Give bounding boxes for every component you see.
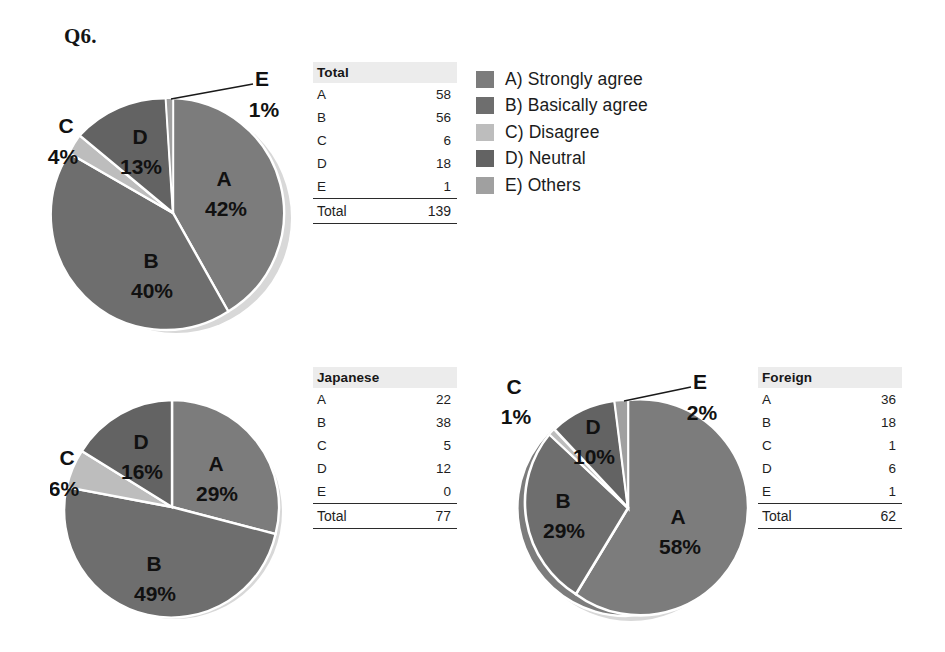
legend-swatch-b-icon	[476, 97, 494, 114]
table-foreign-row-3-key: D	[758, 457, 830, 480]
table-japanese-row-4-value: 0	[385, 480, 457, 504]
pie-total-svg: A 42% B 40% C 4% D 13% E 1%	[40, 58, 320, 348]
table-japanese-sum-row: Total 77	[313, 504, 457, 529]
pie-foreign-label-b-key: B	[555, 489, 570, 512]
table-row: A 58	[313, 83, 457, 106]
table-japanese-sum-value: 77	[385, 504, 457, 529]
pie-total-label-b-pct: 40%	[131, 279, 173, 302]
table-row: C 5	[313, 434, 457, 457]
table-row: E 1	[313, 175, 457, 199]
pie-japanese-label-b-pct: 49%	[134, 582, 176, 605]
table-japanese-header: Japanese	[313, 367, 457, 388]
table-foreign-row-1-value: 18	[830, 411, 902, 434]
table-total-row-3-key: D	[313, 152, 385, 175]
page-title: Q6.	[64, 24, 97, 49]
table-row: B 18	[758, 411, 902, 434]
legend-item-d: D) Neutral	[476, 146, 648, 173]
table-total-row-0-key: A	[313, 83, 385, 106]
table-japanese-row-4-key: E	[313, 480, 385, 504]
pie-total-label-a-pct: 42%	[205, 197, 247, 220]
legend: A) Strongly agree B) Basically agree C) …	[476, 66, 648, 199]
table-row: A 36	[758, 388, 902, 411]
legend-label-d: D) Neutral	[505, 148, 586, 169]
pie-japanese-label-a-pct: 29%	[196, 482, 238, 505]
table-total-row-4-key: E	[313, 175, 385, 199]
pie-japanese-label-c-pct: 6%	[50, 477, 79, 500]
table-foreign-header: Foreign	[758, 367, 902, 388]
pie-foreign-label-c-pct: 1%	[501, 405, 532, 428]
leader-line-e	[624, 387, 691, 401]
table-foreign-row-2-value: 1	[830, 434, 902, 457]
pie-japanese-label-c-key: C	[59, 446, 74, 469]
legend-item-b: B) Basically agree	[476, 93, 648, 120]
pie-foreign-svg: A 58% B 29% C 1% D 10% E 2%	[500, 370, 780, 635]
table-total-row-2-key: C	[313, 129, 385, 152]
table-total-row-2-value: 6	[385, 129, 457, 152]
pie-total-label-d-key: D	[132, 125, 147, 148]
table-total-sum-value: 139	[385, 199, 457, 224]
legend-swatch-c-icon	[476, 124, 494, 141]
table-row: C 6	[313, 129, 457, 152]
table-japanese-body: A 22 B 38 C 5 D 12 E 0 Total 77	[313, 388, 457, 529]
table-foreign-sum-label: Total	[758, 504, 830, 529]
pie-japanese-svg: A 29% B 49% C 6% D 16%	[50, 385, 320, 635]
legend-swatch-e-icon	[476, 177, 494, 194]
table-japanese-row-1-value: 38	[385, 411, 457, 434]
table-row: A 22	[313, 388, 457, 411]
pie-chart-total: A 42% B 40% C 4% D 13% E 1%	[40, 58, 320, 348]
pie-total-label-d-pct: 13%	[120, 155, 162, 178]
table-japanese-sum-label: Total	[313, 504, 385, 529]
pie-total-label-a-key: A	[216, 167, 231, 190]
legend-label-e: E) Others	[505, 175, 581, 196]
table-japanese: Japanese A 22 B 38 C 5 D 12 E 0	[313, 367, 457, 529]
pie-foreign-label-a-key: A	[670, 505, 685, 528]
document-page: Q6. A 42% B 40% C	[0, 0, 945, 652]
table-row: D 12	[313, 457, 457, 480]
pie-total-label-c-pct: 4%	[48, 145, 79, 168]
pie-total-label-b-key: B	[143, 249, 158, 272]
table-row: C 1	[758, 434, 902, 457]
pie-total-label-c-key: C	[58, 114, 73, 137]
pie-chart-japanese: A 29% B 49% C 6% D 16%	[50, 385, 320, 635]
legend-item-c: C) Disagree	[476, 119, 648, 146]
pie-total-label-e-key: E	[255, 67, 269, 90]
table-row: D 18	[313, 152, 457, 175]
leader-line-e	[171, 84, 253, 99]
table-foreign-row-4-value: 1	[830, 480, 902, 504]
table-row: B 38	[313, 411, 457, 434]
pie-japanese-label-a-key: A	[208, 452, 223, 475]
pie-foreign-label-b-pct: 29%	[543, 519, 585, 542]
table-row: D 6	[758, 457, 902, 480]
table-foreign-row-1-key: B	[758, 411, 830, 434]
table-foreign-row-0-value: 36	[830, 388, 902, 411]
legend-swatch-a-icon	[476, 71, 494, 88]
table-row: E 1	[758, 480, 902, 504]
pie-foreign-label-e-pct: 2%	[687, 401, 718, 424]
legend-item-a: A) Strongly agree	[476, 66, 648, 93]
table-japanese-row-0-key: A	[313, 388, 385, 411]
table-total-row-4-value: 1	[385, 175, 457, 199]
pie-chart-foreign: A 58% B 29% C 1% D 10% E 2%	[500, 370, 780, 635]
legend-label-b: B) Basically agree	[505, 95, 648, 116]
table-total-row-1-value: 56	[385, 106, 457, 129]
legend-label-c: C) Disagree	[505, 122, 599, 143]
table-foreign-row-3-value: 6	[830, 457, 902, 480]
legend-label-a: A) Strongly agree	[505, 69, 643, 90]
table-foreign-body: A 36 B 18 C 1 D 6 E 1 Total 62	[758, 388, 902, 529]
legend-swatch-d-icon	[476, 150, 494, 167]
table-japanese-row-1-key: B	[313, 411, 385, 434]
table-row: E 0	[313, 480, 457, 504]
table-row: B 56	[313, 106, 457, 129]
table-foreign-sum-value: 62	[830, 504, 902, 529]
table-foreign-row-2-key: C	[758, 434, 830, 457]
table-total: Total A 58 B 56 C 6 D 18 E 1 T	[313, 62, 457, 224]
pie-foreign-label-e-key: E	[693, 370, 707, 393]
table-total-row-1-key: B	[313, 106, 385, 129]
pie-foreign-label-a-pct: 58%	[659, 535, 701, 558]
legend-item-e: E) Others	[476, 172, 648, 199]
pie-japanese-label-b-key: B	[146, 552, 161, 575]
pie-japanese-label-d-pct: 16%	[121, 460, 163, 483]
table-foreign-sum-row: Total 62	[758, 504, 902, 529]
table-japanese-row-2-key: C	[313, 434, 385, 457]
pie-foreign-label-c-key: C	[506, 375, 521, 398]
